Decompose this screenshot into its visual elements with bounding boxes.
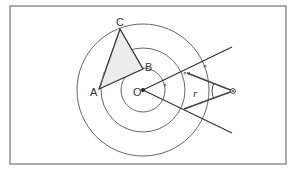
label-a: A — [90, 86, 98, 98]
label-r: r — [193, 87, 198, 99]
ray-upper — [143, 47, 232, 90]
triangle-abc — [99, 29, 143, 89]
label-b: B — [145, 61, 152, 73]
label-o: O — [133, 86, 142, 98]
geometry-diagram: C B A O r — [0, 0, 296, 169]
label-c: C — [116, 16, 124, 28]
center-point — [141, 88, 145, 92]
compass-hinge-arc — [212, 83, 214, 99]
compass-pivot-dot — [232, 90, 234, 92]
figure-frame — [10, 6, 286, 164]
arrow-tick-middle — [184, 72, 187, 75]
